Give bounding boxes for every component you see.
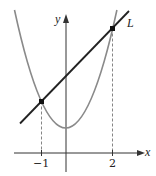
intersection-point-left bbox=[39, 99, 44, 104]
y-axis-label: y bbox=[55, 13, 60, 25]
x-axis-arrow-icon bbox=[137, 150, 145, 156]
y-axis-arrow-icon bbox=[63, 14, 69, 23]
line-label-L: L bbox=[127, 17, 134, 29]
tick-label-neg1: −1 bbox=[33, 158, 49, 169]
tick-label-2: 2 bbox=[109, 158, 116, 169]
x-axis-label: x bbox=[145, 146, 150, 158]
intersection-point-right bbox=[110, 26, 115, 31]
